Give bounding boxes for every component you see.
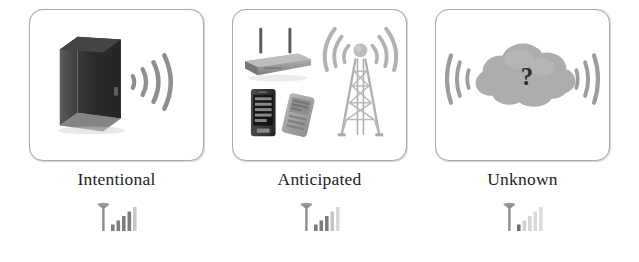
smartphone-icon xyxy=(251,89,276,136)
router-box-icon xyxy=(58,37,125,135)
antenna-mast-icon xyxy=(503,203,515,231)
panel-anticipated xyxy=(232,9,407,161)
wifi-waves-left-icon xyxy=(447,55,469,102)
wireless-categories-figure: Intentional xyxy=(0,0,639,262)
panel-column-intentional: Intentional xyxy=(28,9,206,233)
question-mark-icon: ? xyxy=(521,63,533,90)
panel-caption-anticipated: Anticipated xyxy=(278,170,362,189)
feature-phone-icon xyxy=(281,92,315,137)
intentional-artwork xyxy=(30,10,203,160)
panel-unknown: ? xyxy=(435,9,610,161)
panel-column-anticipated: Anticipated xyxy=(231,9,409,233)
signal-bars-medium-icon xyxy=(296,199,344,233)
panel-caption-unknown: Unknown xyxy=(487,170,557,189)
wireless-router-icon xyxy=(245,28,311,82)
panel-column-unknown: ? Unknown xyxy=(434,9,612,233)
signal-bar-group xyxy=(314,207,340,231)
antenna-mast-icon xyxy=(97,203,109,231)
antenna-mast-icon xyxy=(300,203,312,231)
panel-caption-intentional: Intentional xyxy=(77,170,155,189)
unknown-artwork: ? xyxy=(436,10,609,160)
panel-intentional xyxy=(29,9,204,161)
wifi-waves-right-icon xyxy=(133,55,171,108)
anticipated-artwork xyxy=(233,10,406,160)
signal-bar-group xyxy=(517,207,543,231)
wifi-waves-right-icon xyxy=(576,55,598,102)
signal-bars-strong-icon xyxy=(93,199,141,233)
signal-bars-weak-icon xyxy=(499,199,547,233)
signal-bar-group xyxy=(111,207,137,231)
cell-tower-icon xyxy=(325,29,397,137)
